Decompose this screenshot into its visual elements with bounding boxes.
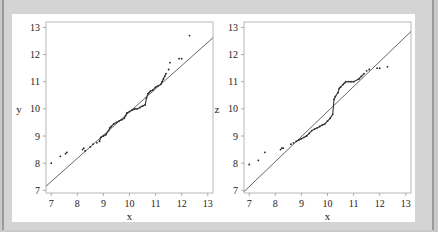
- x-tick-label: 8: [75, 198, 80, 209]
- x-tick-label: 9: [101, 198, 106, 209]
- data-point: [89, 146, 91, 148]
- data-point: [248, 164, 250, 166]
- y-tick-label: 11: [30, 76, 40, 87]
- data-point: [50, 162, 52, 164]
- data-point: [65, 153, 67, 155]
- x-tick-label: 11: [151, 198, 161, 209]
- x-tick-label: 11: [349, 198, 359, 209]
- x-tick-label: 8: [273, 198, 278, 209]
- data-point: [189, 35, 191, 37]
- data-point: [366, 70, 368, 72]
- data-point: [379, 67, 381, 69]
- y-tick-label: 9: [35, 131, 40, 142]
- y-tick-label: 7: [233, 185, 238, 196]
- data-point: [368, 69, 370, 71]
- y-tick-label: 13: [228, 22, 238, 33]
- x-tick-label: 10: [323, 198, 333, 209]
- y-tick-label: 8: [233, 158, 238, 169]
- data-point: [257, 160, 259, 162]
- x-axis-label: x: [127, 210, 133, 222]
- data-point: [169, 62, 171, 64]
- x-tick-label: 13: [401, 198, 411, 209]
- data-point: [82, 149, 84, 151]
- x-tick-label: 10: [125, 198, 135, 209]
- x-axis-label: x: [325, 210, 331, 222]
- y-axis-label: y: [16, 103, 22, 115]
- y-tick-label: 11: [228, 76, 238, 87]
- data-point: [181, 58, 183, 60]
- data-point: [59, 155, 61, 157]
- data-point: [376, 67, 378, 69]
- data-point: [178, 58, 180, 60]
- x-tick-label: 7: [49, 198, 54, 209]
- plot-left: 7891011121378910111213xy: [16, 22, 213, 222]
- data-point: [96, 142, 98, 144]
- plot-right: 7891011121378910111213xz: [215, 22, 411, 222]
- y-tick-label: 13: [30, 22, 40, 33]
- x-tick-label: 12: [375, 198, 385, 209]
- y-axis-label: z: [215, 103, 220, 115]
- data-point: [293, 142, 295, 144]
- data-point: [387, 66, 389, 68]
- y-tick-label: 9: [233, 131, 238, 142]
- data-point: [282, 147, 284, 149]
- y-tick-label: 8: [35, 158, 40, 169]
- chart-canvas: 7891011121378910111213xy 789101112137891…: [0, 0, 438, 232]
- data-point: [290, 143, 292, 145]
- data-point: [280, 149, 282, 151]
- plot-area: [46, 22, 213, 193]
- data-point: [83, 147, 85, 149]
- y-tick-label: 12: [30, 49, 40, 60]
- x-tick-label: 7: [247, 198, 252, 209]
- data-point: [84, 150, 86, 152]
- data-point: [66, 151, 68, 153]
- data-point: [92, 143, 94, 145]
- y-tick-label: 10: [30, 103, 40, 114]
- y-tick-label: 12: [228, 49, 238, 60]
- x-tick-label: 13: [203, 198, 213, 209]
- x-tick-label: 9: [299, 198, 304, 209]
- y-tick-label: 10: [228, 103, 238, 114]
- x-tick-label: 12: [177, 198, 187, 209]
- data-point: [264, 151, 266, 153]
- data-point: [168, 69, 170, 71]
- y-tick-label: 7: [35, 185, 40, 196]
